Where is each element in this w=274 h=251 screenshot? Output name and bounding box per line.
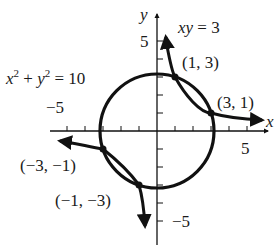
point-neg1-neg3 [136, 182, 143, 189]
x-tick-label-5: 5 [241, 139, 250, 158]
point-neg3-neg1 [100, 146, 107, 153]
point-label-1-3: (1, 3) [182, 53, 219, 72]
point-1-3 [172, 74, 179, 81]
y-tick-label-5: 5 [140, 32, 149, 51]
point-label-3-1: (3, 1) [217, 93, 254, 112]
point-3-1 [208, 110, 215, 117]
x-axis-label: x [265, 112, 274, 131]
circle-equation-label: x2 + y2 = 10 [5, 67, 85, 88]
y-axis-label: y [138, 5, 148, 24]
hyperbola-equation-label: xy = 3 [177, 18, 220, 37]
coordinate-plane: y x 5 5 −5 −5 x2 + y2 = 10 xy = 3 (1, 3)… [0, 0, 274, 251]
x-tick-label-neg5: −5 [46, 98, 64, 117]
point-label-neg3-neg1: (−3, −1) [20, 156, 76, 175]
y-tick-label-neg5: −5 [172, 212, 190, 231]
point-label-neg1-neg3: (−1, −3) [55, 191, 111, 210]
